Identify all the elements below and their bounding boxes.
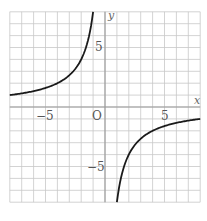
axes [10, 12, 200, 202]
y-tick-label-5: 5 [95, 40, 103, 54]
y-axis-label: y [107, 9, 115, 22]
x-axis-label: x [194, 94, 201, 107]
y-tick-label-neg5: −5 [87, 160, 105, 174]
curve-right-branch [117, 119, 200, 202]
x-tick-label-5: 5 [161, 109, 169, 123]
curve-left-branch [10, 12, 93, 95]
x-tick-label-neg5: −5 [36, 109, 54, 123]
origin-label: O [92, 109, 102, 123]
hyperbola-chart: x y O −5 5 5 −5 [0, 0, 207, 221]
